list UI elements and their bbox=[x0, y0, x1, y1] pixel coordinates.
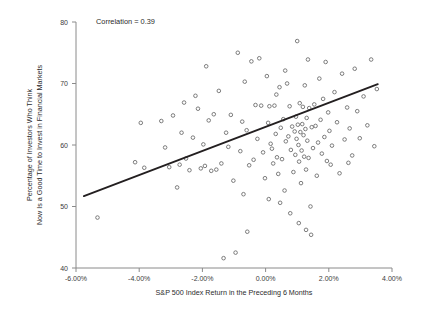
data-point bbox=[265, 74, 269, 78]
data-point bbox=[182, 101, 186, 105]
data-point bbox=[297, 143, 301, 147]
x-tick-label: -6.00% bbox=[65, 275, 87, 282]
data-point bbox=[287, 135, 291, 139]
x-tick-label: 2.00% bbox=[319, 275, 339, 282]
data-point bbox=[294, 153, 298, 157]
data-point bbox=[271, 162, 275, 166]
data-point bbox=[355, 109, 359, 113]
data-point bbox=[275, 93, 279, 97]
data-point bbox=[279, 126, 283, 130]
y-axis-ticks: 4050607080 bbox=[60, 19, 76, 272]
data-point bbox=[328, 129, 332, 133]
chart-canvas: -6.00%-4.00%-2.00%0.00%2.00%4.00% 405060… bbox=[0, 0, 429, 318]
data-point bbox=[275, 156, 279, 160]
data-point bbox=[324, 60, 328, 64]
data-point bbox=[283, 189, 287, 193]
data-point bbox=[280, 157, 284, 161]
data-point bbox=[330, 144, 334, 148]
data-point bbox=[299, 181, 303, 185]
data-point bbox=[266, 121, 270, 125]
x-tick-label: -2.00% bbox=[191, 275, 213, 282]
data-point bbox=[243, 80, 247, 84]
data-point bbox=[167, 165, 171, 169]
data-point bbox=[319, 118, 323, 122]
data-point bbox=[315, 174, 319, 178]
data-point bbox=[227, 145, 231, 149]
data-point bbox=[299, 130, 303, 134]
data-point bbox=[96, 216, 100, 220]
data-point bbox=[209, 169, 213, 173]
data-point bbox=[204, 64, 208, 68]
data-point bbox=[236, 51, 240, 55]
data-point bbox=[245, 128, 249, 132]
data-point bbox=[366, 124, 370, 128]
data-point bbox=[373, 144, 377, 148]
x-axis-title: S&P 500 Index Return in the Preceding 6 … bbox=[156, 288, 313, 297]
data-point bbox=[180, 131, 184, 135]
data-point bbox=[297, 221, 301, 225]
data-point bbox=[163, 146, 167, 150]
data-point bbox=[234, 251, 238, 255]
data-point bbox=[362, 95, 366, 99]
data-point bbox=[175, 186, 179, 190]
data-point bbox=[306, 139, 310, 143]
data-point bbox=[191, 136, 195, 140]
data-point bbox=[160, 119, 164, 123]
data-point bbox=[292, 170, 296, 174]
data-point bbox=[278, 201, 282, 205]
y-axis-title-line-2: Now Is a Good Time to Invest in Financia… bbox=[35, 65, 44, 226]
data-point bbox=[242, 192, 246, 196]
data-point bbox=[295, 39, 299, 43]
data-point bbox=[202, 143, 206, 147]
data-point bbox=[257, 56, 261, 60]
y-tick-label: 40 bbox=[60, 265, 68, 272]
data-point bbox=[309, 205, 313, 209]
regression-trend-line bbox=[84, 84, 378, 196]
data-point bbox=[263, 176, 267, 180]
data-point bbox=[325, 159, 329, 163]
data-point bbox=[323, 135, 327, 139]
data-point bbox=[269, 142, 273, 146]
data-point bbox=[215, 168, 219, 172]
chart-axes bbox=[76, 22, 392, 268]
y-tick-label: 60 bbox=[60, 142, 68, 149]
data-point bbox=[326, 111, 330, 115]
x-tick-label: 0.00% bbox=[256, 275, 276, 282]
data-point bbox=[329, 163, 333, 167]
y-tick-label: 80 bbox=[60, 19, 68, 26]
data-point bbox=[347, 161, 351, 165]
data-point bbox=[276, 172, 280, 176]
data-point bbox=[304, 168, 308, 172]
data-point bbox=[224, 131, 228, 135]
data-point bbox=[303, 84, 307, 88]
data-point bbox=[207, 119, 211, 123]
data-point bbox=[288, 211, 292, 215]
data-point bbox=[302, 133, 306, 137]
data-point bbox=[301, 105, 305, 109]
data-point bbox=[247, 163, 251, 167]
data-point bbox=[285, 82, 289, 86]
data-point bbox=[311, 146, 315, 150]
data-point bbox=[314, 124, 318, 128]
data-point bbox=[320, 152, 324, 156]
data-point bbox=[250, 60, 254, 64]
scatter-plot-figure: -6.00%-4.00%-2.00%0.00%2.00%4.00% 405060… bbox=[0, 0, 429, 318]
data-point bbox=[196, 107, 200, 111]
data-point bbox=[142, 166, 146, 170]
data-point bbox=[338, 171, 342, 175]
data-point bbox=[316, 141, 320, 145]
data-point bbox=[296, 123, 300, 127]
data-point bbox=[245, 230, 249, 234]
data-point bbox=[350, 154, 354, 158]
data-point bbox=[270, 147, 274, 151]
data-point bbox=[295, 137, 299, 141]
data-point bbox=[274, 132, 278, 136]
data-point bbox=[133, 160, 137, 164]
data-point bbox=[293, 130, 297, 134]
data-point bbox=[273, 104, 277, 108]
data-point bbox=[232, 179, 236, 183]
data-point bbox=[321, 97, 325, 101]
data-point bbox=[333, 90, 337, 94]
data-point bbox=[288, 104, 292, 108]
data-point bbox=[345, 106, 349, 110]
